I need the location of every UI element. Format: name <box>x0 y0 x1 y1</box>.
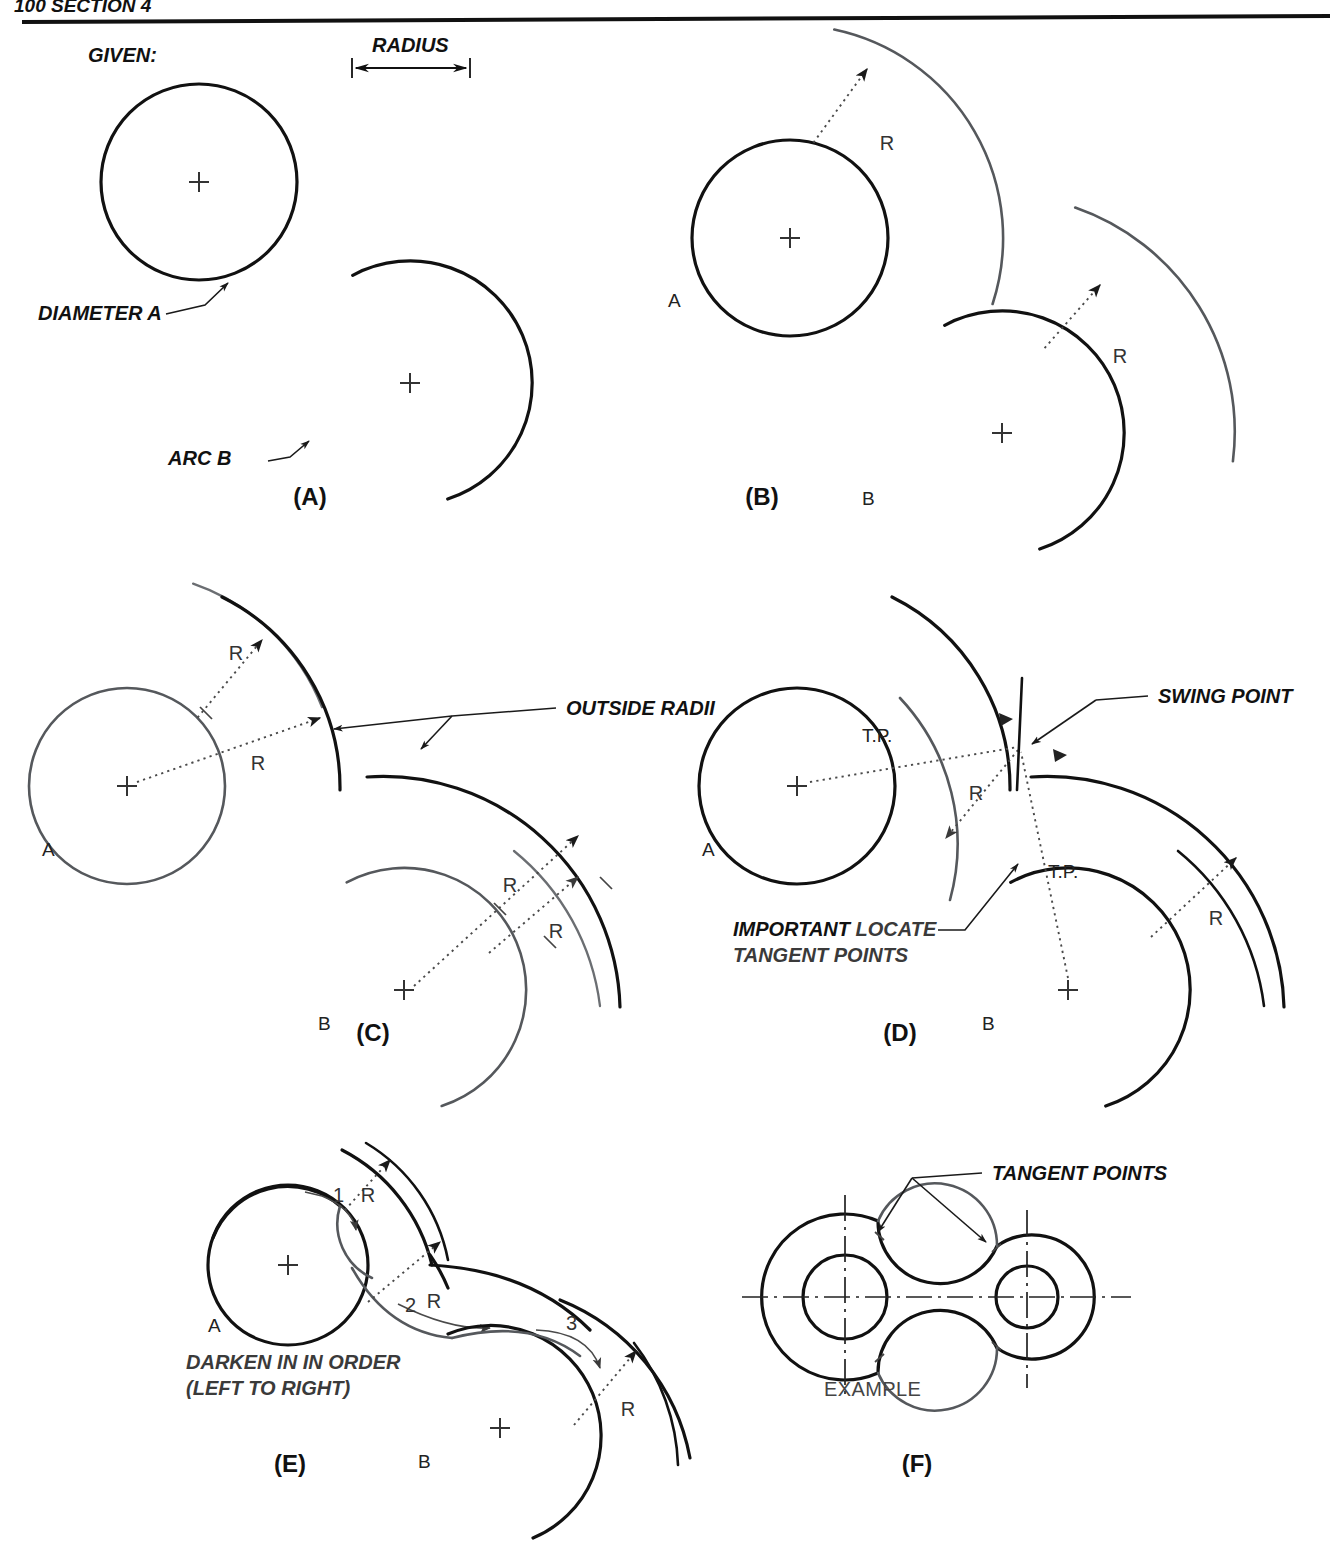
darken-note-line2: (LEFT TO RIGHT) <box>186 1377 350 1399</box>
panel-c-r-line-2 <box>137 718 320 782</box>
panel-d-outside-radius-a <box>892 597 1010 790</box>
locate-word: LOCATE <box>850 918 937 940</box>
given-label: GIVEN: <box>88 44 157 66</box>
arc-b-leader: ARC B <box>167 441 309 469</box>
panel-b-arc-b <box>945 311 1124 549</box>
panel-b-label-a: A <box>668 290 681 311</box>
tangent-arc-construction-figure: 100 SECTION 4 GIVEN: RADIUS DIAMETER <box>0 0 1340 1542</box>
panel-f: TANGENT POINTS EXAMPLE (F) <box>742 1162 1168 1477</box>
important-note-line1: IMPORTANT LOCATE <box>733 918 937 940</box>
panel-e-label-b: B <box>418 1451 431 1472</box>
panel-c-offset-arc-a <box>193 584 322 708</box>
page-header-text: 100 SECTION 4 <box>14 0 152 16</box>
panel-c-label-b: B <box>318 1013 331 1034</box>
panel-e-outside-radius-a <box>342 1150 432 1265</box>
panel-d-outside-radius-b <box>1031 776 1284 1007</box>
arc-b-label: ARC B <box>167 447 231 469</box>
tangent-points-leader: TANGENT POINTS <box>878 1162 1168 1242</box>
panel-b-caption: (B) <box>745 483 778 510</box>
panel-b-center-b <box>992 423 1012 443</box>
panel-d-r-label-1: R <box>969 782 983 804</box>
panel-e-outside-radius-b <box>560 1300 690 1458</box>
panel-b-r-label-b: R <box>1113 345 1127 367</box>
panel-c-outside-radius-a <box>222 597 340 790</box>
panel-e-darken-1 <box>213 1187 340 1238</box>
step-1-label: 1 <box>333 1184 344 1206</box>
panel-d-r-line-a <box>810 747 1018 782</box>
outside-radii-leader: OUTSIDE RADII <box>334 697 715 749</box>
diameter-a-label: DIAMETER A <box>38 302 162 324</box>
panel-c-r-label-2: R <box>251 752 265 774</box>
panel-b-label-b: B <box>862 488 875 509</box>
panel-c-center-a <box>117 776 137 796</box>
panel-c-arc-b <box>347 868 526 1106</box>
page-header: 100 SECTION 4 <box>14 0 1330 22</box>
panel-c-r-label-1: R <box>229 642 243 664</box>
panel-d-label-b: B <box>982 1013 995 1034</box>
panel-e-r-label-2: R <box>427 1290 441 1312</box>
darken-note-line1: DARKEN IN IN ORDER <box>186 1351 401 1373</box>
panel-c-center-b <box>394 980 414 1000</box>
panel-d-arc-b <box>1011 868 1190 1106</box>
panel-b-r-label-a: R <box>880 132 894 154</box>
panel-d-r-label-2: R <box>1209 907 1223 929</box>
panel-e-arc-b <box>448 1325 601 1538</box>
panel-c: A R R B R R <box>29 584 715 1106</box>
panel-f-caption: (F) <box>902 1450 933 1477</box>
panel-d-tp-label-2: T.P. <box>1048 861 1078 882</box>
panel-a-arc-b <box>353 261 532 499</box>
panel-c-tick-5 <box>600 877 612 889</box>
panel-a-center-a <box>189 172 209 192</box>
panel-d-swing-arc-a <box>900 698 958 900</box>
important-word: IMPORTANT <box>733 918 852 940</box>
step-2-arrow: 2 <box>398 1294 490 1328</box>
panel-c-caption: (C) <box>356 1019 389 1046</box>
header-rule <box>22 16 1330 22</box>
panel-d-center-a <box>787 776 807 796</box>
panel-d: A T.P. R SWING POINT B <box>699 597 1294 1106</box>
panel-e-caption: (E) <box>274 1450 306 1477</box>
radius-label: RADIUS <box>372 34 449 56</box>
panel-d-tp-label-1: T.P. <box>862 725 892 746</box>
example-label: EXAMPLE <box>824 1378 921 1400</box>
panel-b-r-line-b <box>1045 285 1100 348</box>
panel-e-r-label-1: R <box>361 1184 375 1206</box>
panel-b-offset-arc-b <box>1075 208 1235 462</box>
step-3-label: 3 <box>566 1312 577 1334</box>
swing-point-label: SWING POINT <box>1158 685 1294 707</box>
diameter-a-leader: DIAMETER A <box>38 283 228 324</box>
panel-e: A R 1 R 2 B <box>186 1143 690 1538</box>
panel-c-tick-1 <box>200 707 212 719</box>
panel-d-caption: (D) <box>883 1019 916 1046</box>
panel-a: GIVEN: RADIUS DIAMETER A ARC B <box>38 34 532 510</box>
panel-b-center-a <box>780 228 800 248</box>
panel-d-center-b <box>1058 980 1078 1000</box>
important-note-line2: TANGENT POINTS <box>733 944 909 966</box>
panel-c-outside-radius-b <box>367 776 620 1007</box>
panel-c-r-label-4: R <box>549 920 563 942</box>
panel-e-r-label-3: R <box>621 1398 635 1420</box>
panel-b: A R B R (B) <box>668 30 1235 549</box>
tangent-points-label: TANGENT POINTS <box>992 1162 1168 1184</box>
panel-d-label-a: A <box>702 839 715 860</box>
radius-dimension: RADIUS <box>352 34 470 78</box>
panel-a-center-b <box>400 373 420 393</box>
panel-e-outside-radius-a2 <box>366 1143 448 1260</box>
panel-c-label-a: A <box>42 839 55 860</box>
swing-point-marker: SWING POINT <box>999 678 1294 790</box>
panel-a-caption: (A) <box>293 483 326 510</box>
outside-radii-label: OUTSIDE RADII <box>566 697 715 719</box>
panel-e-center-b <box>490 1418 510 1438</box>
panel-c-r-label-3: R <box>503 874 517 896</box>
panel-e-center-a <box>278 1255 298 1275</box>
panel-b-r-line-a <box>814 69 868 143</box>
important-note: IMPORTANT LOCATE TANGENT POINTS <box>733 864 1018 966</box>
panel-e-label-a: A <box>208 1315 221 1336</box>
step-2-label: 2 <box>405 1294 416 1316</box>
panel-e-mid-arc <box>430 1255 448 1288</box>
